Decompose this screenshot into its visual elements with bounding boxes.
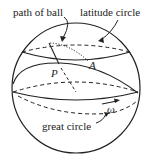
arrowhead-icon bbox=[98, 37, 104, 43]
great-circle-back bbox=[13, 82, 138, 92]
sphere-diagram: path of ball latitude circle great circl… bbox=[0, 0, 146, 160]
latitude-circle-back bbox=[22, 45, 130, 52]
sphere-outline bbox=[12, 23, 140, 153]
arrowhead-icon bbox=[60, 36, 66, 42]
label-omega: ω bbox=[107, 103, 115, 115]
label-great-circle: great circle bbox=[42, 120, 91, 132]
great-circle-pointer bbox=[96, 114, 106, 123]
label-latitude-circle: latitude circle bbox=[80, 6, 140, 18]
latitude-circle-front bbox=[22, 52, 130, 60]
label-point-p: P bbox=[50, 67, 58, 79]
tilted-circle-front bbox=[13, 63, 138, 93]
great-circle-front bbox=[13, 92, 138, 100]
omega-arrowhead-icon bbox=[114, 99, 120, 104]
radius-dashed-line bbox=[61, 68, 76, 92]
label-path-of-ball: path of ball bbox=[13, 6, 63, 18]
path-of-ball-pointer bbox=[63, 17, 68, 38]
tilted-circle-back bbox=[18, 96, 138, 114]
label-point-a: A bbox=[88, 59, 96, 71]
